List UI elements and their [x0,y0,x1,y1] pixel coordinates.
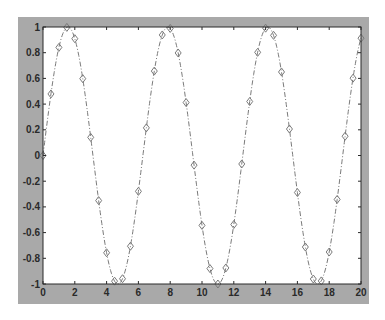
x-tick-label: 12 [228,287,240,298]
x-tick-label: 16 [292,287,304,298]
x-tick-label: 14 [260,287,272,298]
x-tick-label: 20 [355,287,367,298]
y-tick-label: -0.8 [23,253,41,264]
y-tick-label: 0.2 [26,124,40,135]
y-tick-label: -0.4 [23,201,41,212]
x-tick-label: 18 [324,287,336,298]
x-tick-label: 10 [196,287,208,298]
y-tick-label: 0.4 [26,99,40,110]
y-tick-label: -1 [31,279,40,290]
sine-chart: 0246810121416182010.80.60.40.20-0.2-0.4-… [18,17,369,304]
y-tick-label: 0 [34,150,40,161]
y-tick-label: 1 [34,22,40,33]
x-tick-label: 8 [167,287,173,298]
x-tick-label: 4 [104,287,110,298]
y-tick-label: -0.2 [23,176,41,187]
x-tick-label: 0 [40,287,46,298]
y-tick-label: 0.6 [26,73,40,84]
x-tick-label: 6 [136,287,142,298]
x-tick-label: 2 [72,287,78,298]
y-tick-label: -0.6 [23,227,41,238]
figure-window: 0246810121416182010.80.60.40.20-0.2-0.4-… [18,17,369,304]
y-tick-label: 0.8 [26,47,40,58]
plot-area [43,27,361,284]
